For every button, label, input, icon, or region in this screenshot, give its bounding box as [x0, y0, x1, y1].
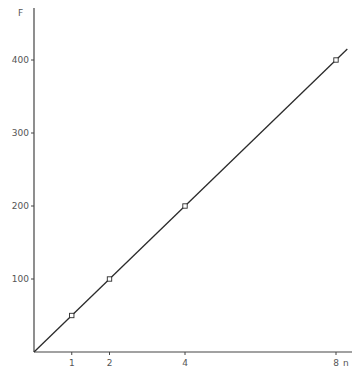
- x-ticks: 1248n: [69, 352, 349, 368]
- x-tick-label: 4: [182, 358, 188, 368]
- y-tick-label: 300: [12, 128, 29, 138]
- x-axis-title: n: [343, 358, 349, 368]
- data-point-marker: [334, 58, 338, 62]
- x-tick-label: 1: [69, 358, 75, 368]
- data-point-marker: [107, 277, 111, 281]
- data-point-marker: [183, 204, 187, 208]
- y-tick-label: 100: [12, 274, 29, 284]
- y-tick-label: 200: [12, 201, 29, 211]
- x-tick-label: 2: [107, 358, 113, 368]
- axes: [34, 8, 352, 352]
- y-tick-label: 400: [12, 55, 29, 65]
- y-axis-title: F: [18, 8, 23, 18]
- fit-line: [34, 49, 347, 352]
- y-ticks: 100200300400: [12, 55, 34, 284]
- data-point-marker: [70, 313, 74, 317]
- chart: F 100200300400 1248n: [0, 0, 364, 373]
- x-tick-label: 8: [333, 358, 339, 368]
